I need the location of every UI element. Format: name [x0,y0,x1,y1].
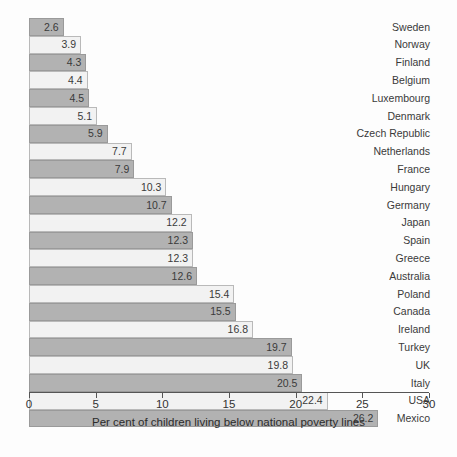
bar-value-label: 7.9 [115,164,134,175]
category-label-column: SwedenNorwayFinlandBelgiumLuxembourgDenm… [330,18,430,392]
bar: 15.5 [29,303,236,321]
category-label: Poland [330,285,430,303]
x-axis-tick-label: 30 [423,399,436,411]
category-label: UK [330,356,430,374]
bar: 16.8 [29,321,253,339]
bar: 5.9 [29,125,108,143]
bar: 12.3 [29,232,193,250]
bar-value-label: 5.9 [88,128,107,139]
category-label: USA [330,392,430,410]
bar-value-label: 12.3 [168,235,192,246]
category-label: Canada [330,303,430,321]
category-label: Finland [330,54,430,72]
category-label: Australia [330,267,430,285]
bar: 19.8 [29,356,293,374]
bar-value-label: 19.7 [266,342,290,353]
bar: 3.9 [29,36,81,54]
category-label: Japan [330,214,430,232]
x-axis-title: Per cent of children living below nation… [0,416,457,428]
category-label: Netherlands [330,143,430,161]
bar: 7.9 [29,160,134,178]
category-label: Norway [330,36,430,54]
bar-value-label: 15.4 [209,289,233,300]
bar-chart: 2.63.94.34.44.55.15.97.77.910.310.712.21… [0,0,457,457]
category-label: Hungary [330,178,430,196]
bar: 10.7 [29,196,172,214]
bar-value-label: 3.9 [61,39,80,50]
bar-value-label: 4.3 [67,57,86,68]
category-label: Italy [330,374,430,392]
x-axis-tick-label: 5 [92,399,98,411]
bar: 12.3 [29,249,193,267]
bar: 20.5 [29,374,302,392]
bar-value-label: 4.5 [69,93,88,104]
x-axis-tick-label: 20 [289,399,302,411]
bar-value-label: 12.2 [166,217,190,228]
category-label: Sweden [330,18,430,36]
bar-value-label: 7.7 [112,146,131,157]
bar-value-label: 12.6 [172,271,196,282]
category-label: Spain [330,232,430,250]
bar: 4.5 [29,89,89,107]
bar: 5.1 [29,107,97,125]
bar: 12.6 [29,267,197,285]
bar: 10.3 [29,178,166,196]
bar-value-label: 12.3 [168,253,192,264]
bar-value-label: 16.8 [228,324,252,335]
category-label: Belgium [330,71,430,89]
category-label: Turkey [330,338,430,356]
bar: 4.3 [29,54,86,72]
bar-value-label: 2.6 [44,22,63,33]
bar: 7.7 [29,143,132,161]
bar: 15.4 [29,285,234,303]
bar-value-label: 20.5 [277,378,301,389]
category-label: Ireland [330,321,430,339]
category-label: Denmark [330,107,430,125]
bar: 19.7 [29,338,292,356]
category-label: Germany [330,196,430,214]
bar: 4.4 [29,71,88,89]
category-label: Greece [330,249,430,267]
category-label: Czech Republic [330,125,430,143]
bar-value-label: 19.8 [268,360,292,371]
bar: 2.6 [29,18,64,36]
bar-value-label: 10.3 [141,182,165,193]
bar-value-label: 10.7 [146,200,170,211]
bar-value-label: 4.4 [68,75,87,86]
bar: 22.4 [29,392,328,410]
category-label: France [330,160,430,178]
bar-value-label: 22.4 [302,395,326,406]
bar-value-label: 15.5 [210,306,234,317]
bar-value-label: 5.1 [77,111,96,122]
x-axis-tick-label: 25 [356,399,369,411]
category-label: Luxembourg [330,89,430,107]
bar: 12.2 [29,214,192,232]
x-axis-tick-label: 10 [156,399,169,411]
x-axis-tick-label: 15 [223,399,236,411]
x-axis-tick-label: 0 [26,399,32,411]
